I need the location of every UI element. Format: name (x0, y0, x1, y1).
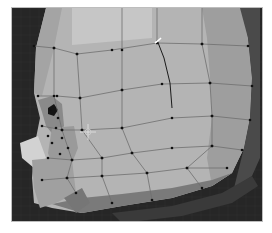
viewport-canvas[interactable] (12, 8, 263, 222)
mesh-vertex[interactable] (56, 95, 59, 98)
mesh-vertex[interactable] (59, 153, 62, 156)
mesh-vertex[interactable] (81, 129, 84, 132)
mesh-vertex[interactable] (47, 135, 50, 138)
mesh-vertex[interactable] (111, 202, 114, 205)
mesh-vertex[interactable] (209, 82, 212, 85)
mesh-vertex[interactable] (75, 192, 78, 195)
mesh-vertex[interactable] (53, 47, 56, 50)
mesh-vertex[interactable] (131, 152, 134, 155)
mesh-vertex[interactable] (201, 187, 204, 190)
mesh-vertex[interactable] (146, 172, 149, 175)
mesh-vertex[interactable] (151, 199, 154, 202)
mesh-vertex[interactable] (161, 83, 164, 86)
mesh-vertex[interactable] (37, 95, 40, 98)
mesh-vertex[interactable] (226, 167, 229, 170)
mesh-vertex[interactable] (201, 43, 204, 46)
mesh-vertex[interactable] (249, 119, 252, 122)
mesh-vertex[interactable] (121, 89, 124, 92)
mesh-vertex[interactable] (67, 147, 70, 150)
mesh-vertex[interactable] (251, 85, 254, 88)
mesh-vertex[interactable] (47, 157, 50, 160)
mesh-vertex[interactable] (49, 109, 52, 112)
mesh-vertex[interactable] (51, 142, 54, 145)
mesh-vertex[interactable] (101, 175, 104, 178)
mesh-vertex[interactable] (53, 95, 56, 98)
mesh-vertex[interactable] (121, 127, 124, 130)
mesh-vertex[interactable] (171, 147, 174, 150)
mesh-vertex[interactable] (41, 179, 44, 182)
mesh-vertex[interactable] (41, 125, 44, 128)
mesh-vertex[interactable] (121, 49, 124, 52)
mesh-vertex[interactable] (111, 49, 114, 52)
mesh-vertex[interactable] (57, 117, 60, 120)
mesh-vertex[interactable] (61, 129, 64, 132)
mesh-vertex[interactable] (211, 145, 214, 148)
mesh-vertex[interactable] (241, 149, 244, 152)
mesh-vertex[interactable] (101, 157, 104, 160)
mesh-vertex[interactable] (79, 97, 82, 100)
mesh-vertex[interactable] (55, 127, 58, 130)
mesh-vertex[interactable] (71, 159, 74, 162)
mesh-vertex[interactable] (61, 137, 64, 140)
mesh-vertex[interactable] (76, 53, 79, 56)
mesh-vertex[interactable] (171, 117, 174, 120)
mesh-vertex[interactable] (247, 45, 250, 48)
mesh-vertex[interactable] (211, 115, 214, 118)
mesh-vertex[interactable] (66, 177, 69, 180)
mesh-vertex[interactable] (33, 45, 36, 48)
head-mesh[interactable] (20, 8, 260, 222)
3d-viewport[interactable] (11, 7, 263, 222)
mesh-vertex[interactable] (186, 167, 189, 170)
